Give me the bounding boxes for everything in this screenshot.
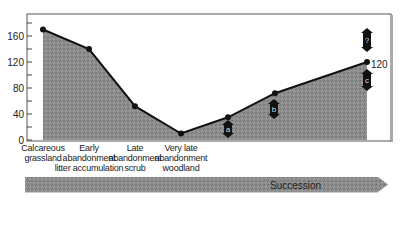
svg-text:c: c: [365, 76, 369, 85]
data-point: [364, 59, 370, 65]
svg-text:b: b: [272, 105, 277, 114]
data-point: [178, 131, 184, 137]
data-point: [272, 90, 278, 96]
y-tick-label: 160: [7, 31, 24, 42]
end-value-label: 120: [371, 59, 388, 70]
data-point: [132, 103, 138, 109]
x-tick-label: Very lateabandonmentwoodland: [155, 143, 208, 173]
succession-label: Succession: [270, 180, 321, 191]
y-tick-label: 80: [13, 83, 25, 94]
y-tick-label: 40: [13, 109, 25, 120]
data-point: [86, 46, 92, 52]
x-tick-label: Lateabandonmentscrub: [109, 143, 162, 173]
succession-arrow: Succession: [25, 177, 388, 193]
y-tick-label: 120: [7, 57, 24, 68]
data-point: [40, 27, 46, 33]
data-point: [225, 114, 231, 120]
svg-text:?: ?: [365, 36, 370, 45]
svg-text:a: a: [226, 125, 231, 134]
